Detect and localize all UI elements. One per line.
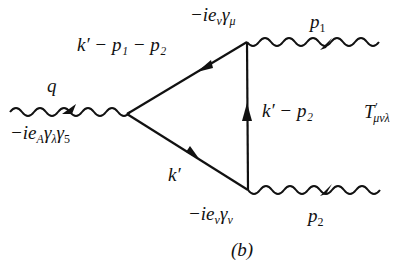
label-p1: p1 xyxy=(310,12,326,31)
amp-sub: μνλ xyxy=(373,111,390,125)
top-pre: −ie xyxy=(190,4,217,25)
photon-line-p2 xyxy=(248,186,380,194)
p1-sub: 1 xyxy=(320,21,326,35)
label-upper-fermion: k′ − p₁ − p₂ xyxy=(77,35,166,54)
label-amplitude: T′μνλ xyxy=(364,101,390,121)
vertical-fermion-text: k′ − p₂ xyxy=(262,100,313,121)
arrow-icon-vertical xyxy=(242,103,252,121)
axial-sub-a: A xyxy=(37,132,44,146)
label-vertical-fermion: k′ − p₂ xyxy=(262,101,313,120)
label-q: q xyxy=(47,76,57,95)
bottom-sub-nu: ν xyxy=(227,213,232,227)
bottom-pre: −ie xyxy=(188,203,215,224)
top-sub-mu: μ xyxy=(229,14,235,28)
label-top-vertex: −ievγμ xyxy=(190,5,235,24)
upper-fermion-text: k′ − p₁ − p₂ xyxy=(77,34,166,55)
label-bottom-vertex: −ievγν xyxy=(188,204,233,223)
p2-p: p xyxy=(308,205,318,226)
lower-fermion-text: k′ xyxy=(168,164,181,185)
label-axial-vertex: −ieAγλγ5 xyxy=(10,123,70,142)
caption-text: (b) xyxy=(231,239,253,260)
axial-gamma2: γ xyxy=(57,122,65,143)
label-lower-fermion: k′ xyxy=(168,165,181,184)
p1-p: p xyxy=(310,11,320,32)
arrow-icon-upper xyxy=(197,60,213,72)
q-text: q xyxy=(47,75,57,96)
arrow-icon-lower xyxy=(186,146,200,160)
caption: (b) xyxy=(231,240,253,259)
photon-line-p1 xyxy=(247,38,379,46)
axial-sub-5: 5 xyxy=(64,132,70,146)
p2-sub: 2 xyxy=(318,215,324,229)
label-p2: p2 xyxy=(308,206,324,225)
axial-pre: −ie xyxy=(10,122,37,143)
